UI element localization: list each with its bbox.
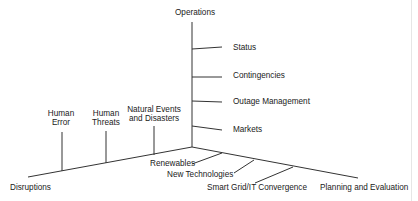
outage-management-label: Outage Management bbox=[233, 97, 311, 106]
human-threats-label-line2: Threats bbox=[92, 118, 120, 127]
markets-branch bbox=[192, 126, 222, 130]
markets-label: Markets bbox=[233, 125, 262, 134]
human-threats-label-line1: Human bbox=[93, 109, 120, 118]
smart-grid-branch bbox=[255, 167, 293, 183]
status-label: Status bbox=[233, 43, 256, 52]
new-technologies-branch bbox=[234, 160, 254, 173]
smart-grid-label: Smart Grid/IT Convergence bbox=[207, 183, 307, 192]
operations-label: Operations bbox=[175, 8, 215, 17]
contingencies-label: Contingencies bbox=[233, 71, 285, 80]
human-error-label-line1: Human bbox=[48, 109, 75, 118]
natural-events-label-line2: and Disasters bbox=[129, 114, 179, 123]
outage-management-branch bbox=[192, 101, 222, 102]
disruptions-label: Disruptions bbox=[10, 183, 51, 192]
human-error-label-line2: Error bbox=[52, 118, 70, 127]
status-branch bbox=[192, 47, 222, 49]
fishbone-diagram: Operations Status Contingencies Outage M… bbox=[0, 0, 418, 201]
renewables-label: Renewables bbox=[150, 159, 195, 168]
renewables-branch bbox=[192, 153, 222, 164]
planning-label: Planning and Evaluation bbox=[320, 183, 409, 192]
natural-events-label-line1: Natural Events bbox=[127, 105, 181, 114]
new-technologies-label: New Technologies bbox=[167, 170, 233, 179]
